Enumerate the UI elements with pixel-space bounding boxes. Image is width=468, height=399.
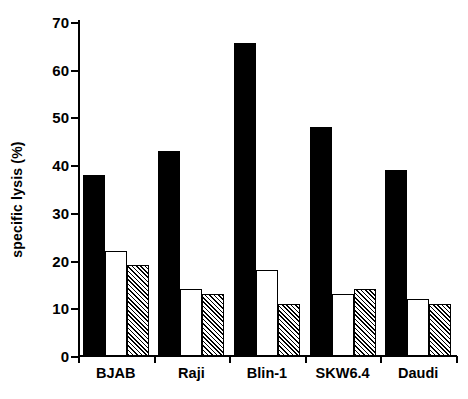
bar-blin-1-series-3 [278,304,300,356]
bar-daudi-series-2 [407,299,429,356]
y-tick-label: 40 [52,158,69,173]
bar-group-daudi [385,22,451,356]
x-tick-mark [456,356,458,363]
bar-daudi-series-1 [385,170,407,356]
y-tick-mark [71,213,78,215]
bar-skw6.4-series-3 [354,289,376,356]
bar-raji-series-1 [158,151,180,356]
bar-group-skw6.4 [310,22,376,356]
y-tick-label: 10 [52,301,69,316]
y-tick-label: 0 [61,349,69,364]
bar-chart: specific lysis (%) 010203040506070 BJABR… [0,0,468,399]
x-tick-mark [154,356,156,363]
y-tick-mark [71,308,78,310]
bar-blin-1-series-1 [234,43,256,356]
bar-raji-series-3 [202,294,224,356]
y-tick-mark [71,261,78,263]
x-label-daudi: Daudi [398,366,438,381]
y-tick-mark [71,117,78,119]
x-label-skw6.4: SKW6.4 [316,366,370,381]
bar-bjab-series-1 [83,175,105,356]
y-tick-mark [71,356,78,358]
y-tick-label: 30 [52,205,69,220]
bar-bjab-series-2 [105,251,127,356]
bar-blin-1-series-2 [256,270,278,356]
x-label-blin-1: Blin-1 [247,366,287,381]
x-tick-mark [305,356,307,363]
x-tick-mark [380,356,382,363]
y-tick-label: 60 [52,62,69,77]
plot-area: 010203040506070 [78,22,456,356]
bar-group-bjab [83,22,149,356]
bar-skw6.4-series-1 [310,127,332,356]
y-tick-label: 20 [52,253,69,268]
y-tick-mark [71,70,78,72]
bar-daudi-series-3 [429,304,451,356]
y-tick-label: 70 [52,15,69,30]
x-label-bjab: BJAB [96,366,135,381]
x-label-raji: Raji [178,366,205,381]
bar-group-raji [158,22,224,356]
y-tick-mark [71,22,78,24]
y-tick-label: 50 [52,110,69,125]
x-tick-mark [229,356,231,363]
bar-bjab-series-3 [127,265,149,356]
bar-raji-series-2 [180,289,202,356]
x-tick-mark [78,356,80,363]
y-tick-mark [71,165,78,167]
bar-skw6.4-series-2 [332,294,354,356]
y-axis-title: specific lysis (%) [0,0,34,399]
bar-group-blin-1 [234,22,300,356]
